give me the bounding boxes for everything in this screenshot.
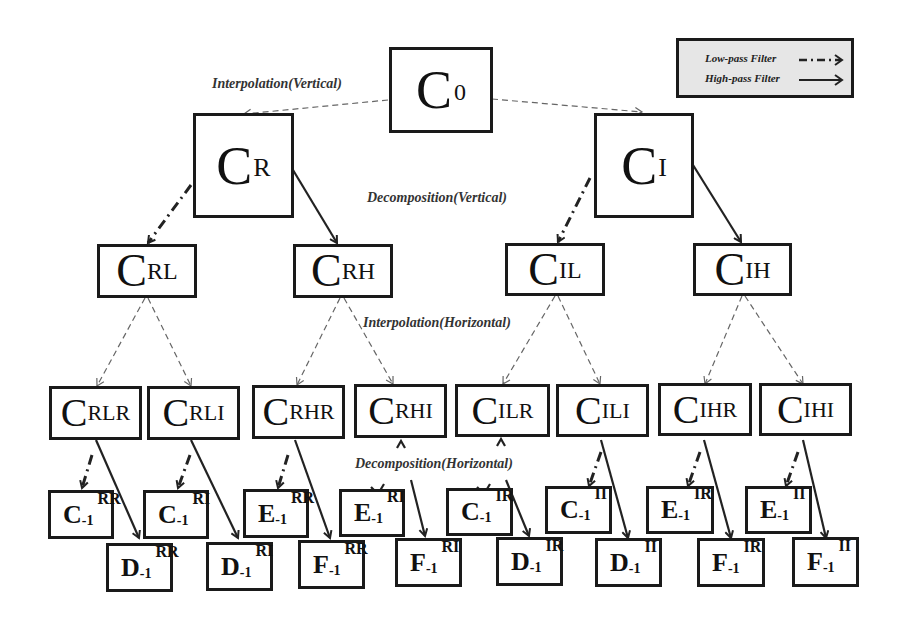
node-sup: II [839, 538, 851, 554]
node-sup: R [253, 155, 270, 181]
node-sup: II [793, 486, 805, 502]
node-d-1-ri: D-1RI [206, 542, 273, 591]
node-sup: RLR [87, 402, 130, 424]
node-sub: -1 [371, 512, 383, 526]
node-sub: -1 [678, 509, 690, 523]
node-base: C [63, 502, 82, 528]
node-base: C [61, 393, 88, 433]
node-sup: RR [345, 541, 368, 557]
node-sub: -1 [329, 564, 341, 578]
node-base: C [714, 247, 745, 293]
node-sub: -1 [823, 561, 835, 575]
node-base: C [162, 393, 189, 433]
node-sup: IR [744, 539, 762, 555]
node-cihi: CIHI [759, 383, 852, 436]
node-crhr: CRHR [252, 385, 345, 439]
node-base: D [221, 554, 240, 580]
node-f-1-rr: F-1RR [298, 540, 365, 589]
node-e-1-ii: E-1II [745, 486, 812, 534]
node-sup: RI [192, 491, 210, 507]
node-sup: IR [545, 538, 563, 554]
node-cili: CILI [556, 384, 649, 437]
node-base: E [354, 500, 371, 526]
node-sup: RI [387, 489, 405, 505]
node-sup: IL [559, 258, 582, 282]
node-c-1-ir: C-1IR [446, 488, 513, 536]
node-cil: CIL [505, 243, 605, 296]
node-sub: -1 [777, 509, 789, 523]
node-cilr: CILR [455, 384, 550, 437]
node-sup: IR [495, 488, 513, 504]
node-sup: RH [342, 259, 375, 283]
node-sup: RR [155, 544, 178, 560]
node-sup: II [644, 539, 656, 555]
node-sup: I [658, 155, 667, 181]
node-d-1-ir: D-1IR [496, 537, 563, 586]
node-base: C [528, 247, 559, 293]
node-base: E [258, 501, 275, 527]
node-c-1-ri: C-1RI [143, 490, 209, 539]
node-ci: CI [594, 113, 694, 218]
node-crlr: CRLR [49, 386, 142, 440]
label-interpolation-vertical: Interpolation(Vertical) [212, 76, 342, 92]
node-sup: RHI [395, 400, 433, 422]
node-sub: -1 [177, 514, 189, 528]
node-sub: -1 [426, 562, 438, 576]
node-sup: IHI [804, 399, 835, 421]
node-base: C [416, 63, 452, 117]
node-sub: -1 [629, 562, 641, 576]
node-base: F [712, 550, 728, 576]
node-base: F [807, 549, 823, 575]
node-e-1-ri: E-1RI [339, 489, 405, 537]
node-crh: CRH [293, 244, 393, 298]
node-crhi: CRHI [354, 384, 447, 438]
node-base: D [121, 555, 140, 581]
node-base: D [610, 550, 629, 576]
node-base: C [461, 499, 480, 525]
node-base: F [313, 552, 329, 578]
node-base: E [661, 497, 678, 523]
node-f-1-ri: F-1RI [395, 538, 462, 587]
legend: Low-pass Filter High-pass Filter [676, 38, 854, 98]
label-decomposition-horizontal: Decomposition(Horizontal) [355, 456, 513, 472]
node-base: E [760, 497, 777, 523]
node-sup: RR [291, 490, 314, 506]
node-cihr: CIHR [658, 383, 752, 436]
node-base: C [471, 391, 498, 431]
node-base: C [673, 390, 700, 430]
legend-high-pass-label: High-pass Filter [705, 72, 780, 84]
node-sub: -1 [728, 562, 740, 576]
node-sub: -1 [240, 566, 252, 580]
node-e-1-ir: E-1IR [646, 486, 714, 534]
node-sup: RI [442, 539, 460, 555]
node-sub: -1 [140, 567, 152, 581]
node-base: C [575, 391, 602, 431]
node-sup: RR [97, 491, 120, 507]
node-sub: -1 [82, 514, 94, 528]
node-sup: IHR [699, 399, 737, 421]
node-sup: ILR [498, 400, 533, 422]
node-e-1-rr: E-1RR [243, 489, 309, 538]
node-f-1-ii: F-1II [792, 537, 859, 587]
node-cih: CIH [693, 243, 792, 296]
node-c-1-ii: C-1II [545, 486, 612, 534]
low-pass-arrow-icon [797, 53, 847, 67]
node-sub: -1 [480, 511, 492, 525]
node-sub: 0 [454, 80, 466, 104]
node-base: C [263, 392, 290, 432]
high-pass-arrow-icon [797, 73, 847, 87]
node-base: C [560, 497, 579, 523]
node-base: C [368, 391, 395, 431]
node-d-1-ii: D-1II [595, 538, 662, 587]
node-crl: CRL [97, 244, 197, 298]
node-sup: ILI [602, 400, 630, 422]
node-base: C [621, 139, 657, 193]
node-cr: CR [193, 113, 294, 218]
node-c-1-rr: C-1RR [48, 490, 114, 539]
legend-low-pass-label: Low-pass Filter [705, 52, 776, 64]
node-base: C [777, 390, 804, 430]
node-sub: -1 [530, 561, 542, 575]
node-sup: RI [255, 543, 273, 559]
node-sub: -1 [579, 509, 591, 523]
node-d-1-rr: D-1RR [106, 543, 173, 592]
